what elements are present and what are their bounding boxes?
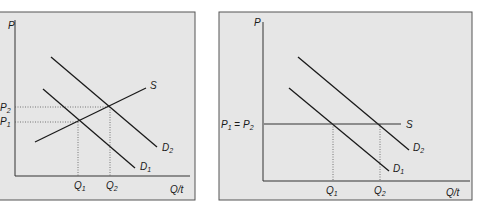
left-y-axis-label: P	[8, 20, 15, 31]
left-panel-frame	[0, 12, 195, 200]
right-price-label: P1 = P2	[221, 119, 254, 131]
right-panel-frame	[219, 12, 472, 200]
left-x-axis-label: Q/t	[170, 184, 185, 195]
supply-demand-diagrams: P Q/t P2 P1 Q1 Q2 S D2 D1 P Q/t P1 = P2 …	[0, 0, 482, 206]
left-supply-label: S	[150, 80, 157, 91]
left-panel: P Q/t P2 P1 Q1 Q2 S D2 D1	[0, 12, 195, 200]
right-x-axis-label: Q/t	[446, 187, 461, 198]
right-y-axis-label: P	[254, 17, 261, 28]
right-panel: P Q/t P1 = P2 Q1 Q2 S D2 D1	[219, 12, 472, 200]
right-supply-label: S	[406, 119, 413, 130]
